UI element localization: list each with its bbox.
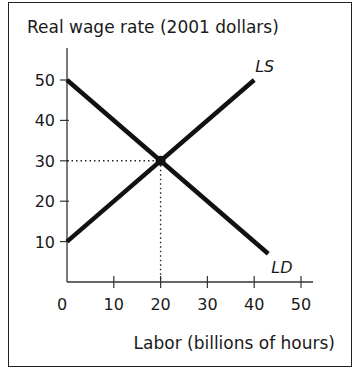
equilibrium-guides bbox=[67, 161, 161, 282]
x-tick-label: 10 bbox=[104, 295, 124, 314]
y-tick-label: 40 bbox=[35, 111, 55, 130]
x-tick-label: 0 bbox=[57, 295, 67, 314]
x-tick-label: 50 bbox=[291, 295, 311, 314]
curve-label-ld: LD bbox=[271, 258, 292, 277]
curve-ld bbox=[67, 80, 268, 254]
equilibrium-point bbox=[156, 156, 166, 166]
x-tick-label: 20 bbox=[150, 295, 170, 314]
y-tick-label: 20 bbox=[35, 192, 55, 211]
y-tick-label: 30 bbox=[35, 152, 55, 171]
x-axis-title: Labor (billions of hours) bbox=[134, 333, 335, 353]
labor-market-chart: Real wage rate (2001 dollars) Labor (bil… bbox=[0, 0, 361, 371]
curves: LSLD bbox=[67, 57, 292, 277]
y-tick-label: 50 bbox=[35, 71, 55, 90]
y-axis-title: Real wage rate (2001 dollars) bbox=[27, 17, 279, 37]
x-tick-label: 30 bbox=[197, 295, 217, 314]
y-tick-label: 10 bbox=[35, 233, 55, 252]
curve-label-ls: LS bbox=[255, 57, 274, 76]
x-tick-label: 40 bbox=[244, 295, 264, 314]
